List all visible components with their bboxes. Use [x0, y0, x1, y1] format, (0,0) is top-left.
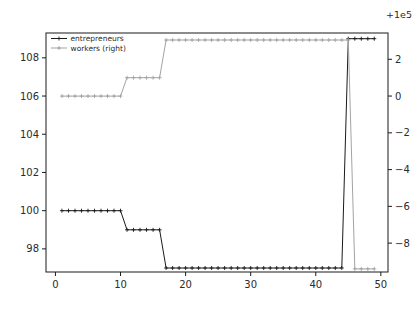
legend-label: workers (right): [71, 44, 126, 53]
x-tick-label: 30: [244, 279, 257, 290]
right-axis-offset-label: +1e5: [386, 9, 412, 20]
plot-frame: [46, 33, 388, 272]
series-markers-0: [60, 37, 376, 270]
x-tick-label: 50: [374, 279, 387, 290]
left-y-tick-label: 102: [20, 167, 39, 178]
left-y-tick-label: 108: [20, 52, 39, 63]
left-y-tick-label: 106: [20, 91, 39, 102]
x-tick-label: 0: [52, 279, 58, 290]
x-tick-label: 20: [179, 279, 192, 290]
left-y-tick-label: 100: [20, 205, 39, 216]
right-y-tick-label: −6: [395, 201, 410, 212]
series-line-1: [62, 40, 374, 269]
series-line-0: [62, 39, 374, 268]
x-tick-label: 10: [114, 279, 127, 290]
left-y-tick-label: 98: [26, 243, 39, 254]
x-tick-label: 40: [309, 279, 322, 290]
series-markers-1: [60, 38, 376, 271]
legend-sample-marker: [57, 37, 61, 41]
figure: 010203040509810010210410610820−2−4−6−8+1…: [0, 0, 420, 313]
line-chart: 010203040509810010210410610820−2−4−6−8+1…: [0, 0, 420, 313]
left-y-tick-label: 104: [20, 129, 39, 140]
right-y-tick-label: −2: [395, 127, 410, 138]
legend-label: entrepreneurs: [71, 34, 124, 43]
legend-sample-marker: [57, 46, 61, 50]
right-y-tick-label: −8: [395, 238, 410, 249]
right-y-tick-label: 0: [395, 91, 401, 102]
right-y-tick-label: −4: [395, 164, 410, 175]
right-y-tick-label: 2: [395, 54, 401, 65]
